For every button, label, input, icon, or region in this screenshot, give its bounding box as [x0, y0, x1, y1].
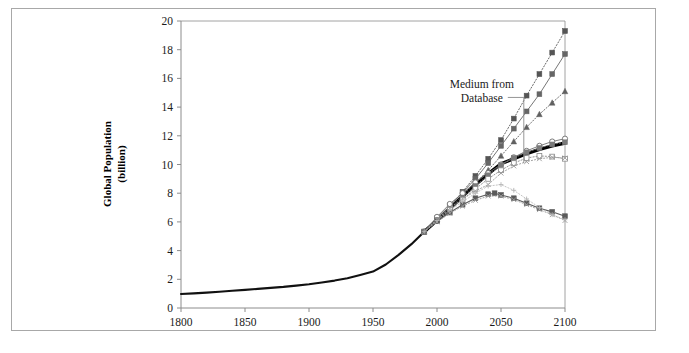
- y-tick-label: 20: [162, 15, 174, 27]
- population-projection-chart: 0246810121416182018001850190019502000205…: [12, 9, 655, 330]
- series-line: [181, 232, 424, 294]
- x-tick-label: 2000: [426, 316, 449, 328]
- y-tick-label: 10: [162, 159, 174, 171]
- marker-square: [537, 146, 542, 151]
- series-historical: [181, 232, 424, 294]
- x-tick-label: 2100: [554, 316, 577, 328]
- marker-square: [550, 50, 555, 55]
- marker-square: [550, 142, 555, 147]
- marker-plus: [511, 188, 516, 193]
- y-tick-label: 14: [162, 101, 174, 113]
- x-tick-label: 1950: [362, 316, 385, 328]
- marker-square: [524, 109, 529, 114]
- figure-page: 0246810121416182018001850190019502000205…: [0, 0, 689, 353]
- x-tick-label: 1850: [234, 316, 257, 328]
- y-tick-label: 0: [167, 302, 173, 314]
- x-tick-label: 2050: [490, 316, 513, 328]
- figure-frame: 0246810121416182018001850190019502000205…: [11, 8, 656, 331]
- marker-square: [550, 72, 555, 77]
- marker-circle-open: [447, 201, 452, 206]
- y-tick-label: 2: [167, 273, 173, 285]
- marker-square: [524, 150, 529, 155]
- series-medium-from-database: [424, 143, 565, 232]
- series-line: [424, 31, 565, 232]
- marker-square: [511, 156, 516, 161]
- marker-square: [537, 72, 542, 77]
- annotation-line1: Medium from: [450, 78, 514, 90]
- annotation-line2: Database: [461, 92, 503, 104]
- marker-triangle: [562, 88, 568, 93]
- x-tick-label: 1800: [170, 316, 193, 328]
- marker-square-open: [550, 154, 555, 159]
- x-tick-label: 1900: [298, 316, 321, 328]
- marker-square: [563, 29, 568, 34]
- marker-square: [563, 52, 568, 57]
- y-axis-title-line1: Global Population: [101, 121, 113, 207]
- marker-square: [499, 143, 504, 148]
- y-tick-label: 18: [162, 44, 174, 56]
- marker-square: [499, 138, 504, 143]
- series-high-scenario-a-squares-dotted: [422, 29, 568, 234]
- marker-square-open: [486, 176, 491, 181]
- marker-square: [492, 191, 497, 196]
- marker-square: [511, 116, 516, 121]
- marker-square: [499, 163, 504, 168]
- y-tick-label: 12: [162, 130, 174, 142]
- y-axis-title-line2: (billion): [115, 145, 128, 183]
- marker-triangle: [549, 100, 555, 105]
- marker-square: [524, 93, 529, 98]
- y-tick-label: 16: [162, 72, 174, 84]
- y-tick-label: 6: [167, 216, 173, 228]
- y-tick-label: 4: [167, 245, 173, 257]
- marker-square: [511, 126, 516, 131]
- marker-square-open: [563, 156, 568, 161]
- series-declining-scenario-j-dotted-faint: [422, 182, 568, 234]
- series-line: [424, 143, 565, 232]
- series-line: [424, 142, 565, 231]
- y-axis-title: Global Population(billion): [101, 121, 128, 207]
- marker-triangle: [498, 153, 504, 158]
- marker-square: [537, 92, 542, 97]
- marker-plus: [486, 184, 491, 189]
- marker-square: [563, 140, 568, 145]
- y-tick-label: 8: [167, 187, 173, 199]
- marker-square: [486, 161, 491, 166]
- marker-plus: [499, 182, 504, 187]
